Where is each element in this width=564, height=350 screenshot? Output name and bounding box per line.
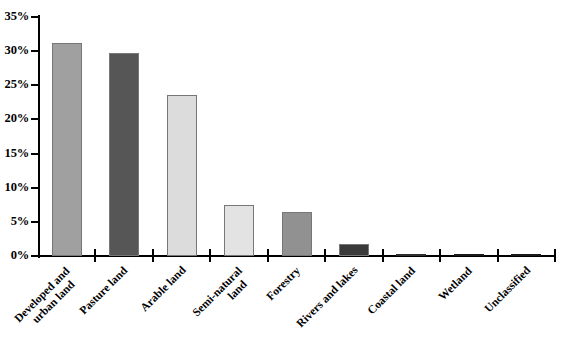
x-axis-category-label: Arable land [138,264,189,315]
y-axis-tick [31,118,38,120]
bar [282,212,312,256]
y-axis-tick-label: 5% [11,214,29,229]
y-axis-tick-label: 25% [5,77,29,92]
bar [167,95,197,256]
y-axis-tick [31,16,38,18]
x-axis-category-label: Coastal land [365,264,418,317]
y-axis-tick [31,50,38,52]
bar [224,205,254,256]
bar [396,254,426,256]
x-axis-category-label: Forestry [264,264,303,303]
y-axis-tick-label: 30% [5,43,29,58]
bar [339,244,369,256]
y-axis-labels: 0%5%10%15%20%25%30%35% [0,0,29,350]
x-axis-category-label: Unclassified [482,264,533,315]
y-axis-tick-label: 10% [5,180,29,195]
x-axis-category-label: Pasture land [77,264,130,317]
y-axis-tick-label: 15% [5,146,29,161]
bar-chart: 0%5%10%15%20%25%30%35% Developed andurba… [0,0,564,350]
bar [454,254,484,256]
x-axis-category-label: Rivers and lakes [294,264,361,331]
y-axis-tick-label: 35% [5,9,29,24]
x-axis-category-label: Wetland [436,264,475,303]
x-axis-category-label: Semi-naturalland [190,264,254,328]
y-axis-tick [31,153,38,155]
y-axis-tick [31,255,38,257]
y-axis-tick-label: 20% [5,111,29,126]
y-axis-tick [31,84,38,86]
bar [52,43,82,256]
bar [109,53,139,256]
bars-layer [38,17,555,256]
y-axis-tick [31,187,38,189]
y-axis-tick [31,221,38,223]
bar [511,254,541,256]
y-axis-tick-label: 0% [11,248,29,263]
